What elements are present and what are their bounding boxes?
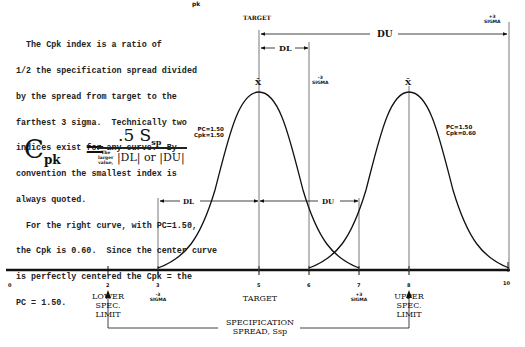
plus3-sigma-bottom: +3SIGMA xyxy=(349,292,369,302)
formula-numerator: .5 Ssp xyxy=(118,125,161,147)
plus3-sigma-right: +3SIGMA xyxy=(484,14,501,24)
title-fragment: pk xyxy=(192,0,200,7)
dl-lower-label: DL xyxy=(183,197,194,206)
tick-label: 10 xyxy=(503,280,510,286)
tick-label: 7 xyxy=(357,282,360,288)
description-text: The Cpk index is a ratio of 1/2 the spec… xyxy=(16,24,231,316)
denominator-note: Thelargervalue, xyxy=(98,150,113,165)
minus3-sigma-bottom: -3SIGMA xyxy=(148,292,168,302)
formula-lhs: Cpk xyxy=(24,134,61,167)
upper-spec-limit: UPPERSPEC.LIMIT xyxy=(389,292,429,319)
tick-label: 0 xyxy=(8,282,11,288)
target-top-label: TARGET xyxy=(243,14,271,21)
dl-top-label: DL xyxy=(279,43,292,53)
left-curve-stats: PC=1.50Cpk=1.50 xyxy=(194,126,224,138)
xbar-right: X̄ xyxy=(405,77,411,87)
lower-spec-limit: LOWERSPEC.LIMIT xyxy=(88,292,128,319)
tick-label: 3 xyxy=(156,282,159,288)
tick-label: 5 xyxy=(257,282,260,288)
minus3-sigma-right: -3SIGMA xyxy=(312,75,329,85)
target-bottom-label: TARGET xyxy=(238,294,282,303)
right-curve-stats: PC=1.50Cpk=0.60 xyxy=(446,124,476,136)
formula-denominator: Thelargervalue, |DL| or |DU| xyxy=(98,150,185,165)
fraction-line xyxy=(97,147,187,149)
specification-spread-label: SPECIFICATIONSPREAD, Ssp xyxy=(218,318,302,336)
tick-label: 2 xyxy=(106,282,109,288)
du-lower-label: DU xyxy=(322,197,334,206)
du-top-label: DU xyxy=(377,29,393,39)
xbar-left: X̄ xyxy=(255,77,261,87)
tick-label: 8 xyxy=(407,282,410,288)
tick-label: 6 xyxy=(307,282,310,288)
